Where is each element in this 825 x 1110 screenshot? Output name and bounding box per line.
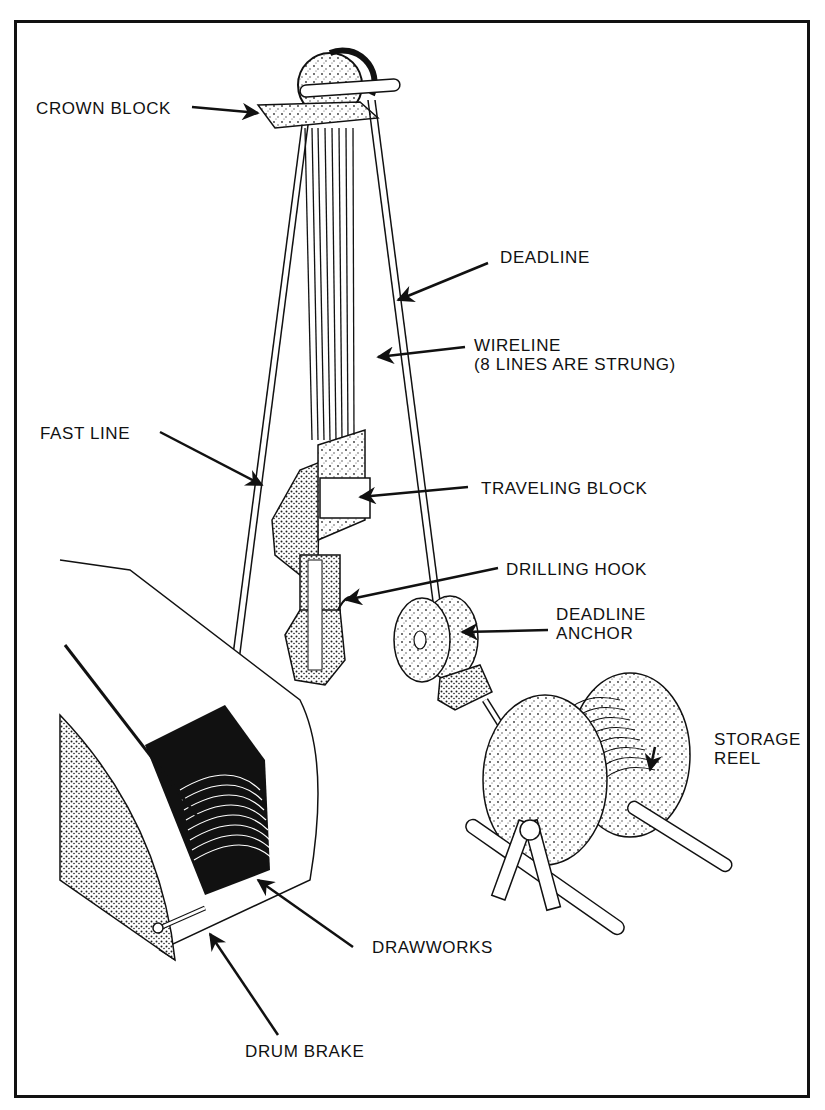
label-fast-line: FAST LINE — [40, 424, 130, 443]
label-storage-reel: STORAGE — [714, 730, 801, 749]
storage-reel — [463, 673, 734, 937]
wireline-bundle — [305, 128, 354, 440]
label-storage-reel-2: REEL — [714, 749, 761, 768]
deadline-anchor — [394, 596, 510, 740]
label-deadline-anchor: DEADLINE — [556, 605, 646, 624]
label-wireline: WIRELINE — [474, 336, 561, 355]
label-deadline: DEADLINE — [500, 248, 590, 267]
deadline — [368, 100, 445, 640]
drawworks — [60, 560, 318, 960]
traveling-block — [272, 430, 370, 685]
label-crown-block: CROWN BLOCK — [36, 99, 171, 118]
label-drilling-hook: DRILLING HOOK — [506, 560, 647, 579]
crown-block — [258, 50, 400, 128]
label-drawworks: DRAWWORKS — [372, 938, 493, 957]
label-drum-brake: DRUM BRAKE — [245, 1042, 364, 1061]
label-wireline-note: (8 LINES ARE STRUNG) — [474, 355, 676, 374]
label-traveling-block: TRAVELING BLOCK — [481, 479, 647, 498]
label-deadline-anchor-2: ANCHOR — [556, 624, 633, 643]
